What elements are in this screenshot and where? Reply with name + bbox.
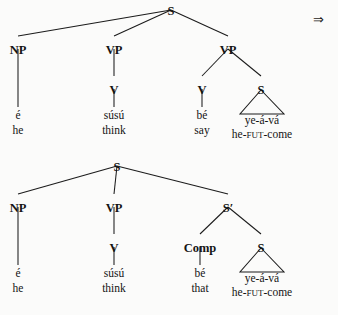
surface-structure-tree: SNPVPVPVVSéhesúsúthinkbésayye-á-váhe-FUT… xyxy=(10,4,293,140)
tree-node-label: Comp xyxy=(184,241,217,255)
leaf-gloss: he xyxy=(13,124,24,136)
deep-structure-tree: SNPVPS′VCompSéhesúsúthinkbéthatye-á-váhe… xyxy=(10,160,293,298)
leaf-word: súsú xyxy=(104,267,125,279)
leaf-gloss: that xyxy=(191,282,209,294)
leaf-gloss: he-FUT-come xyxy=(232,286,292,298)
tree-node-label: V xyxy=(109,241,118,255)
tree-branch xyxy=(117,166,228,194)
leaf-gloss: he-FUT-come xyxy=(232,128,292,140)
tree-node-label: V xyxy=(197,83,206,97)
double-right-arrow-icon: ⇒ xyxy=(313,13,324,26)
tree-node-label: VP xyxy=(106,201,123,215)
leaf-word: é xyxy=(15,109,20,121)
tree-node-label: S xyxy=(114,160,121,174)
leaf-word: é xyxy=(15,267,20,279)
tree-node-label: S xyxy=(258,83,265,97)
tree-canvas: SNPVPVPVVSéhesúsúthinkbésayye-á-váhe-FUT… xyxy=(0,0,338,315)
leaf-word: súsú xyxy=(104,109,125,121)
leaf-gloss: he xyxy=(13,282,24,294)
tree-branch xyxy=(18,166,117,194)
tree-node-label: NP xyxy=(10,201,27,215)
leaf-word: ye-á-vá xyxy=(245,114,279,127)
leaf-gloss: say xyxy=(194,124,210,137)
tree-node-label: NP xyxy=(10,43,27,57)
tree-node-label: S xyxy=(168,4,175,18)
tree-branch xyxy=(114,10,171,36)
tree-node-label: V xyxy=(109,83,118,97)
leaf-word: bé xyxy=(197,109,208,121)
leaf-gloss: think xyxy=(102,282,126,294)
leaf-word: ye-á-vá xyxy=(245,272,279,285)
tree-node-label: VP xyxy=(106,43,123,57)
tree-branch xyxy=(171,10,228,36)
leaf-gloss: think xyxy=(102,124,126,136)
tree-node-label: S′ xyxy=(223,201,233,215)
tree-branch xyxy=(18,10,171,36)
tree-node-label: VP xyxy=(220,43,237,57)
syntax-tree-figure: SNPVPVPVVSéhesúsúthinkbésayye-á-váhe-FUT… xyxy=(0,0,338,315)
tree-node-label: S xyxy=(258,241,265,255)
leaf-word: bé xyxy=(195,267,206,279)
